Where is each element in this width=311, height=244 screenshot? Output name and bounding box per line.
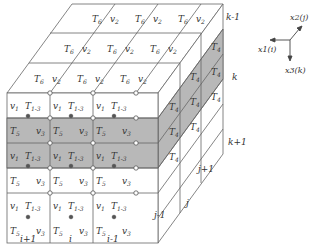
axis-indicator: [270, 26, 302, 61]
svg-text:i+1: i+1: [20, 234, 36, 244]
svg-text:x1(i): x1(i): [258, 45, 276, 54]
svg-text:k: k: [232, 72, 237, 82]
svg-text:k+1: k+1: [228, 137, 247, 147]
svg-text:k-1: k-1: [226, 12, 240, 22]
grid-cube-diagram: v1 T1-3 v1 T1-3 v1 T1-3 T5 v3 T5 v3 T5 v…: [0, 0, 311, 244]
svg-text:i-1: i-1: [107, 234, 119, 244]
svg-text:x2(j): x2(j): [290, 13, 308, 22]
svg-text:j-1: j-1: [152, 210, 166, 220]
svg-text:j+1: j+1: [196, 164, 214, 174]
svg-text:i: i: [69, 234, 72, 244]
svg-text:x3(k): x3(k): [285, 66, 306, 75]
axis-labels: x1(i) x2(j) x3(k): [258, 13, 308, 75]
